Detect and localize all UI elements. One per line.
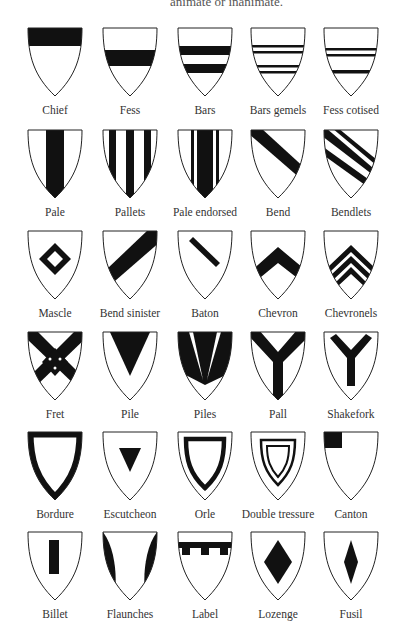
charge-flaunches: Flaunches	[93, 530, 167, 620]
pale-endorsed-shield-icon	[176, 128, 234, 200]
charge-pile: Pile	[93, 330, 167, 420]
label-shield-icon	[176, 530, 234, 602]
pile-shield-icon	[101, 330, 159, 402]
fess-cotised-shield-icon	[322, 26, 380, 98]
pale-shield-icon	[26, 128, 84, 200]
charge-label: Bars	[168, 104, 242, 116]
bars-gemels-shield-icon	[249, 26, 307, 98]
charge-label: Canton	[314, 508, 388, 520]
charge-label: Billet	[18, 608, 92, 620]
charge-chief: Chief	[18, 26, 92, 116]
orle-shield-icon	[176, 430, 234, 502]
charge-label: Bend sinister	[93, 307, 167, 319]
charge-label: Orle	[168, 508, 242, 520]
charge-label: Bendlets	[314, 206, 388, 218]
canton-shield-icon	[322, 430, 380, 502]
charge-label: Fess cotised	[314, 104, 388, 116]
charge-double-tressure: Double tressure	[241, 430, 315, 520]
mascle-shield-icon	[26, 229, 84, 301]
charge-mascle: Mascle	[18, 229, 92, 319]
charge-label: Baton	[168, 307, 242, 319]
pallets-shield-icon	[101, 128, 159, 200]
charge-label: Mascle	[18, 307, 92, 319]
bend-sinister-shield-icon	[101, 229, 159, 301]
charge-label: Flaunches	[93, 608, 167, 620]
chevron-shield-icon	[249, 229, 307, 301]
charge-escutcheon: Escutcheon	[93, 430, 167, 520]
charge-chevronels: Chevronels	[314, 229, 388, 319]
charge-fess: Fess	[93, 26, 167, 116]
fusil-shield-icon	[322, 530, 380, 602]
charge-piles: Piles	[168, 330, 242, 420]
charge-fusil: Fusil	[314, 530, 388, 620]
charge-pale-endorsed: Pale endorsed	[168, 128, 242, 218]
charge-bordure: Bordure	[18, 430, 92, 520]
charge-chevron: Chevron	[241, 229, 315, 319]
charge-label: Bars gemels	[241, 104, 315, 116]
charge-fess-cotised: Fess cotised	[314, 26, 388, 116]
fess-shield-icon	[101, 26, 159, 98]
charge-shakefork: Shakefork	[314, 330, 388, 420]
baton-shield-icon	[176, 229, 234, 301]
charge-label: Pallets	[93, 206, 167, 218]
bordure-shield-icon	[26, 430, 84, 502]
charge-label: Label	[168, 608, 242, 620]
charge-lozenge: Lozenge	[241, 530, 315, 620]
charge-bendlets: Bendlets	[314, 128, 388, 218]
charge-pall: Pall	[241, 330, 315, 420]
charge-label: Fusil	[314, 608, 388, 620]
escutcheon-shield-icon	[101, 430, 159, 502]
charge-fret: Fret	[18, 330, 92, 420]
shakefork-shield-icon	[322, 330, 380, 402]
chevronels-shield-icon	[322, 229, 380, 301]
charge-label: Piles	[168, 408, 242, 420]
charge-label: Chevronels	[314, 307, 388, 319]
charge-pallets: Pallets	[93, 128, 167, 218]
charge-label: Shakefork	[314, 408, 388, 420]
charge-label: Bend	[241, 206, 315, 218]
charge-bend: Bend	[241, 128, 315, 218]
charge-billet: Billet	[18, 530, 92, 620]
charge-label: Pale	[18, 206, 92, 218]
charge-pale: Pale	[18, 128, 92, 218]
charge-label: Label	[168, 530, 242, 620]
pall-shield-icon	[249, 330, 307, 402]
charge-label: Chief	[18, 104, 92, 116]
charge-bars: Bars	[168, 26, 242, 116]
bendlets-shield-icon	[322, 128, 380, 200]
charge-label: Fret	[18, 408, 92, 420]
bars-shield-icon	[176, 26, 234, 98]
double-tressure-shield-icon	[249, 430, 307, 502]
charge-baton: Baton	[168, 229, 242, 319]
piles-shield-icon	[176, 330, 234, 402]
charge-label: Lozenge	[241, 608, 315, 620]
charge-label: Fess	[93, 104, 167, 116]
charge-label: Pile	[93, 408, 167, 420]
lozenge-shield-icon	[249, 530, 307, 602]
charge-label: Double tressure	[241, 508, 315, 520]
charge-orle: Orle	[168, 430, 242, 520]
charge-label: Escutcheon	[93, 508, 167, 520]
clipped-caption: animate or inanimate.	[170, 0, 283, 10]
bend-shield-icon	[249, 128, 307, 200]
charge-canton: Canton	[314, 430, 388, 520]
charge-bars-gemels: Bars gemels	[241, 26, 315, 116]
chief-shield-icon	[26, 26, 84, 98]
charge-label: Pall	[241, 408, 315, 420]
charge-label: Bordure	[18, 508, 92, 520]
fret-shield-icon	[26, 330, 84, 402]
charge-bend-sinister: Bend sinister	[93, 229, 167, 319]
charge-label: Chevron	[241, 307, 315, 319]
charge-label: Pale endorsed	[168, 206, 242, 218]
billet-shield-icon	[26, 530, 84, 602]
flaunches-shield-icon	[101, 530, 159, 602]
